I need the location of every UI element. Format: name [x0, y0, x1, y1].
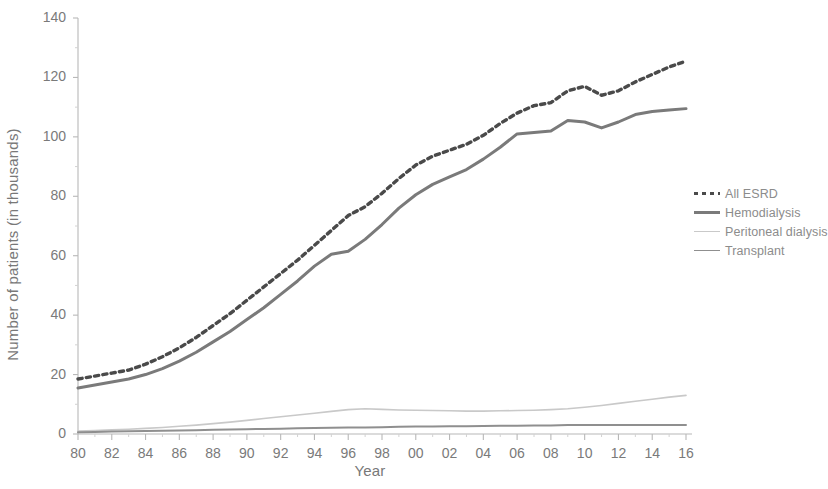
y-tick-label: 80: [26, 187, 66, 203]
x-tick-label: 80: [63, 445, 93, 461]
series-line-all-esrd: [78, 61, 686, 379]
series-line-hemodialysis: [78, 109, 686, 388]
legend-item-label: Peritoneal dialysis: [725, 225, 828, 239]
legend-item-label: Transplant: [725, 244, 785, 258]
x-tick-label: 08: [536, 445, 566, 461]
x-tick-label: 84: [131, 445, 161, 461]
x-tick-label: 16: [671, 445, 701, 461]
x-tick-label: 82: [97, 445, 127, 461]
y-tick-label: 40: [26, 306, 66, 322]
x-tick-label: 88: [198, 445, 228, 461]
x-tick-label: 06: [502, 445, 532, 461]
x-tick-label: 10: [570, 445, 600, 461]
y-tick-label: 140: [26, 9, 66, 25]
legend-swatch-icon: [694, 207, 720, 219]
x-tick-label: 02: [435, 445, 465, 461]
y-tick-label: 120: [26, 68, 66, 84]
series-line-transplant: [78, 425, 686, 432]
x-tick-label: 12: [603, 445, 633, 461]
legend-item-peritoneal-dialysis: Peritoneal dialysis: [694, 222, 814, 241]
x-tick-label: 00: [401, 445, 431, 461]
x-tick-label: 98: [367, 445, 397, 461]
x-tick-label: 94: [299, 445, 329, 461]
legend-item-transplant: Transplant: [694, 241, 814, 260]
x-tick-label: 96: [333, 445, 363, 461]
y-tick-label: 20: [26, 366, 66, 382]
x-tick-label: 86: [164, 445, 194, 461]
legend-item-label: Hemodialysis: [725, 206, 801, 220]
legend-item-label: All ESRD: [725, 187, 778, 201]
legend-item-all-esrd: All ESRD: [694, 184, 814, 203]
y-tick-label: 60: [26, 247, 66, 263]
y-tick-label: 0: [26, 425, 66, 441]
x-tick-label: 14: [637, 445, 667, 461]
chart-legend: All ESRDHemodialysisPeritoneal dialysisT…: [694, 184, 814, 260]
legend-swatch-icon: [694, 226, 720, 238]
y-tick-label: 100: [26, 128, 66, 144]
x-tick-label: 92: [266, 445, 296, 461]
legend-swatch-icon: [694, 245, 720, 257]
legend-swatch-icon: [694, 188, 720, 200]
x-tick-label: 90: [232, 445, 262, 461]
x-tick-label: 04: [468, 445, 498, 461]
legend-item-hemodialysis: Hemodialysis: [694, 203, 814, 222]
